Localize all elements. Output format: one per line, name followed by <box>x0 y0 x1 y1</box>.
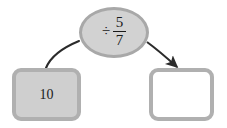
input-value-box[interactable]: 10 <box>12 68 81 121</box>
operator-expression: ÷ 5 7 <box>102 15 126 48</box>
input-value-label: 10 <box>40 88 54 102</box>
fraction-numerator: 5 <box>115 15 125 31</box>
output-value-box[interactable] <box>149 68 214 121</box>
division-symbol: ÷ <box>102 24 110 39</box>
function-machine-diagram: ÷ 5 7 10 <box>0 0 227 128</box>
connector-input-to-operator <box>46 41 79 68</box>
fraction-five-sevenths: 5 7 <box>113 15 126 48</box>
fraction-denominator: 7 <box>115 32 125 48</box>
connector-operator-to-output <box>147 42 177 67</box>
operator-node[interactable]: ÷ 5 7 <box>79 7 149 58</box>
